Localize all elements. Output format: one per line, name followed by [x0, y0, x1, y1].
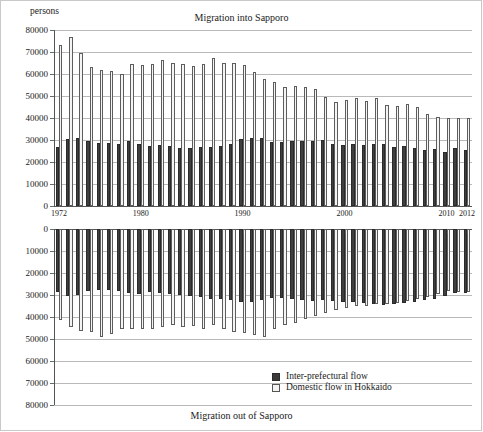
bar-domestic-flow-2001 [355, 98, 358, 206]
bar-inter-prefectural-1975 [86, 141, 89, 206]
y-axis-tick-label: 70000 [0, 48, 48, 57]
bar-inter-prefectural-1996 [300, 229, 303, 300]
plot-area-migration-into [54, 30, 472, 206]
bar-inter-prefectural-1982 [158, 229, 161, 293]
bar-domestic-flow-1988 [222, 229, 225, 329]
x-axis-tick-mark [59, 202, 60, 207]
y-axis-tick-label: 10000 [0, 247, 48, 256]
bar-domestic-flow-1974 [79, 53, 82, 206]
y-axis-tick-label: 40000 [0, 313, 48, 322]
bar-inter-prefectural-1994 [280, 229, 283, 298]
bar-inter-prefectural-1991 [250, 138, 253, 206]
bar-inter-prefectural-2003 [372, 229, 375, 304]
y-axis-tick-mark [50, 162, 54, 163]
bar-inter-prefectural-2011 [453, 148, 456, 206]
gridline [54, 405, 472, 406]
y-axis-tick-mark [50, 405, 54, 406]
bar-inter-prefectural-1973 [66, 139, 69, 206]
bar-inter-prefectural-1976 [97, 229, 100, 290]
bar-inter-prefectural-2000 [341, 229, 344, 302]
bar-domestic-flow-1983 [171, 229, 174, 325]
x-axis-tick-label: 2000 [325, 210, 365, 218]
y-axis-tick-mark [50, 383, 54, 384]
bar-inter-prefectural-2010 [443, 152, 446, 206]
bar-domestic-flow-1980 [141, 65, 144, 206]
bar-domestic-flow-1995 [294, 229, 297, 323]
bar-domestic-flow-1987 [212, 229, 215, 325]
gridline [54, 52, 472, 53]
bar-domestic-flow-1986 [202, 64, 205, 206]
y-axis-tick-label: 50000 [0, 335, 48, 344]
bar-inter-prefectural-1994 [280, 142, 283, 206]
bar-domestic-flow-2008 [426, 229, 429, 297]
gridline [54, 361, 472, 362]
y-axis-tick-mark [50, 251, 54, 252]
bar-inter-prefectural-1977 [107, 143, 110, 206]
bar-domestic-flow-1974 [79, 229, 82, 331]
x-axis-tick-mark [59, 229, 60, 234]
bar-inter-prefectural-1972 [56, 229, 59, 292]
panel-title-migration-into: Migration into Sapporo [0, 12, 483, 23]
y-axis-tick-label: 70000 [0, 379, 48, 388]
bar-inter-prefectural-1993 [270, 142, 273, 206]
bar-inter-prefectural-1997 [311, 141, 314, 206]
bar-domestic-flow-1976 [100, 229, 103, 337]
bar-inter-prefectural-1988 [219, 229, 222, 299]
y-axis-tick-mark [50, 96, 54, 97]
bar-inter-prefectural-1976 [97, 143, 100, 206]
y-axis-tick-label: 30000 [0, 136, 48, 145]
bar-inter-prefectural-1973 [66, 229, 69, 296]
bar-inter-prefectural-2008 [423, 229, 426, 300]
bar-domestic-flow-2011 [457, 229, 460, 292]
bar-domestic-flow-1999 [334, 102, 337, 206]
bar-domestic-flow-1981 [151, 229, 154, 329]
bar-domestic-flow-1999 [334, 229, 337, 310]
bar-domestic-flow-1984 [181, 229, 184, 327]
bar-domestic-flow-1988 [222, 63, 225, 206]
bar-inter-prefectural-1983 [168, 229, 171, 294]
bar-domestic-flow-2012 [467, 118, 470, 206]
x-axis-tick-mark [467, 229, 468, 234]
y-axis-tick-mark [50, 339, 54, 340]
gridline [54, 206, 472, 207]
legend-label-domestic-hokkaido: Domestic flow in Hokkaido [286, 382, 392, 393]
bar-domestic-flow-1979 [130, 229, 133, 329]
x-axis-tick-mark [141, 229, 142, 234]
y-axis-tick-mark [50, 206, 54, 207]
bar-inter-prefectural-1987 [209, 147, 212, 206]
bar-inter-prefectural-2004 [382, 144, 385, 206]
x-axis-tick-mark [447, 229, 448, 234]
bar-inter-prefectural-2010 [443, 229, 446, 296]
x-axis-tick-label: 1980 [121, 210, 161, 218]
bar-inter-prefectural-2009 [433, 149, 436, 206]
bar-domestic-flow-1990 [243, 229, 246, 333]
bar-inter-prefectural-1974 [76, 229, 79, 295]
bar-domestic-flow-1982 [161, 229, 164, 327]
bar-domestic-flow-1984 [181, 64, 184, 206]
bar-inter-prefectural-1981 [148, 229, 151, 292]
legend-swatch-light-icon [272, 384, 280, 392]
bar-domestic-flow-1994 [283, 87, 286, 206]
y-axis-tick-mark [50, 361, 54, 362]
x-axis-tick-mark [345, 202, 346, 207]
bar-domestic-flow-2005 [396, 106, 399, 206]
bar-domestic-flow-2002 [365, 101, 368, 206]
y-axis-tick-label: 80000 [0, 401, 48, 410]
bar-inter-prefectural-1982 [158, 145, 161, 206]
bar-domestic-flow-2001 [355, 229, 358, 306]
bar-domestic-flow-1989 [232, 63, 235, 206]
legend-swatch-dark-icon [272, 373, 280, 381]
bar-inter-prefectural-1985 [188, 229, 191, 296]
bar-domestic-flow-1977 [110, 229, 113, 334]
bar-domestic-flow-2006 [406, 229, 409, 301]
bar-inter-prefectural-1998 [321, 229, 324, 300]
bar-inter-prefectural-1999 [331, 144, 334, 206]
bar-inter-prefectural-1981 [148, 146, 151, 207]
y-axis-tick-label: 0 [0, 225, 48, 234]
y-axis-tick-mark [50, 273, 54, 274]
bar-domestic-flow-2010 [447, 229, 450, 291]
bar-domestic-flow-1989 [232, 229, 235, 332]
y-axis-tick-label: 10000 [0, 180, 48, 189]
bar-domestic-flow-1977 [110, 71, 113, 206]
x-axis-tick-mark [467, 202, 468, 207]
